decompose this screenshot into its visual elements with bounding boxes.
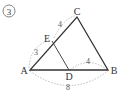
arc-ae <box>29 40 50 68</box>
measure-ae: 3 <box>34 48 38 57</box>
measure-db: 4 <box>86 57 90 66</box>
label-b: B <box>111 65 118 76</box>
problem-number: 3 <box>7 7 12 17</box>
measure-ab: 8 <box>66 83 70 92</box>
label-d: D <box>65 71 72 82</box>
label-e: E <box>44 33 50 44</box>
segment-ed <box>52 41 69 70</box>
label-c: C <box>74 6 81 17</box>
triangle-abc <box>30 17 108 70</box>
measure-ec: 4 <box>58 20 62 29</box>
triangle-diagram: 3 C E A D B 4 3 4 8 <box>0 0 129 97</box>
label-a: A <box>20 65 28 76</box>
